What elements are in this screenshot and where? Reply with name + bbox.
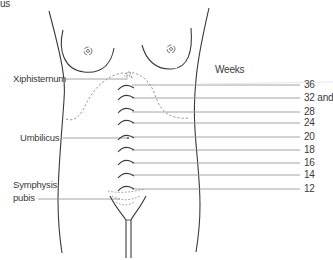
week-label-12: 12 [304,183,315,194]
week-label-32-40: 32 and 40 (in primigravidae) [304,92,333,103]
corner-text-fragment: us [0,0,10,9]
torso-right-outline [194,8,209,252]
week-label-16: 16 [304,157,315,168]
umbilicus-label: Umbilicus [20,132,59,143]
groin-left [110,196,126,220]
week-label-18: 18 [304,144,315,155]
right-nipple-icon [167,45,175,53]
left-nipple-icon [84,47,92,55]
week-label-28: 28 [304,106,315,117]
torso-illustration [0,0,333,260]
xiphisternum-label: Xiphisternum [13,73,66,84]
symphysis-label-line1: Symphysis [13,179,57,190]
symphysis-label-line2: pubis [13,192,35,203]
fundal-height-diagram: us Xiphisternum Umbilicus Symphysis pubi… [0,0,333,260]
umbilicus-dot [127,137,129,139]
groin-right [131,196,146,220]
week-label-14: 14 [304,169,315,180]
week-label-20: 20 [304,131,315,142]
week-label-24: 24 [304,117,315,128]
week-label-36: 36 [304,79,315,90]
right-breast [142,28,191,69]
weeks-header: Weeks [215,64,244,75]
left-breast [61,30,114,72]
